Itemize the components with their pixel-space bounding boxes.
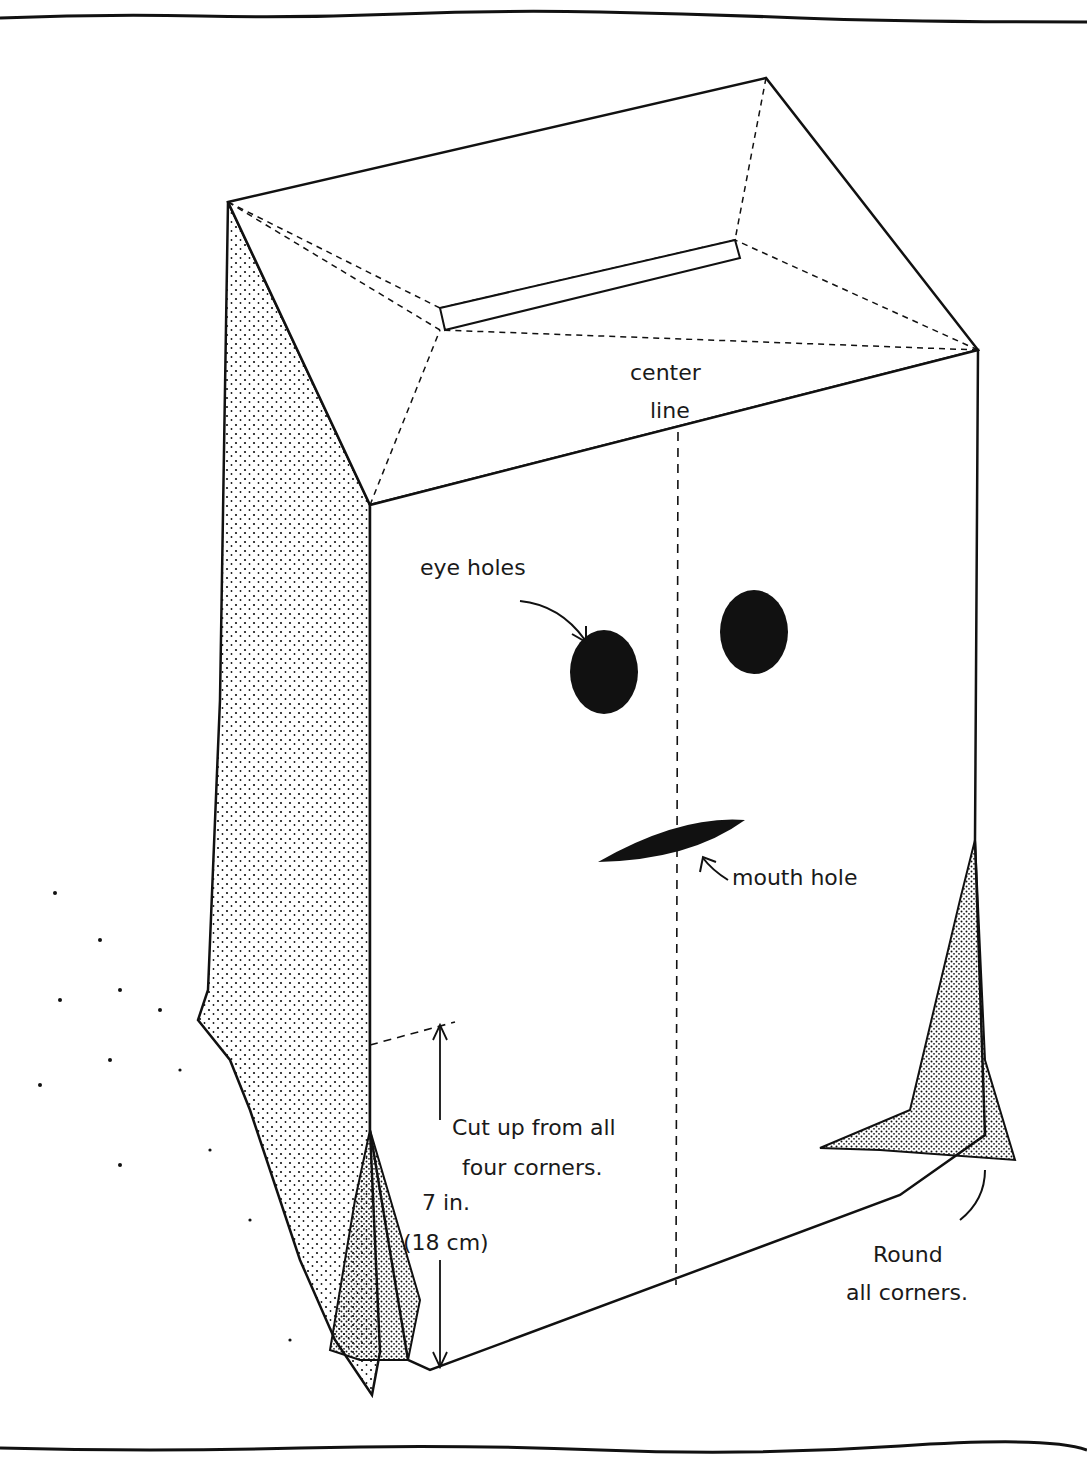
round-arrow bbox=[960, 1170, 985, 1220]
label-measure-cm: (18 cm) bbox=[403, 1230, 489, 1255]
label-line: line bbox=[650, 398, 690, 423]
label-cut-line1: Cut up from all bbox=[452, 1115, 616, 1140]
label-cut-line2: four corners. bbox=[462, 1155, 602, 1180]
eye-hole-left bbox=[570, 630, 638, 714]
label-eye-holes: eye holes bbox=[420, 555, 526, 580]
top-border bbox=[0, 11, 1087, 22]
label-center: center bbox=[630, 360, 702, 385]
label-measure-in: 7 in. bbox=[422, 1190, 470, 1215]
label-mouth-hole: mouth hole bbox=[732, 865, 857, 890]
eye-hole-right bbox=[720, 590, 788, 674]
label-all-corners: all corners. bbox=[846, 1280, 968, 1305]
label-round: Round bbox=[873, 1242, 943, 1267]
paper-bag-diagram: center line eye holes mouth hole Cut up … bbox=[0, 0, 1087, 1465]
bottom-border bbox=[0, 1442, 1087, 1452]
